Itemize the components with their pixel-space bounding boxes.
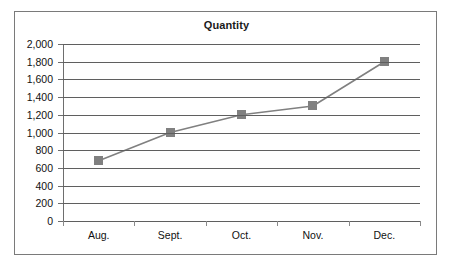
data-point-marker bbox=[308, 101, 317, 110]
y-tick-label: 1,800 bbox=[0, 57, 53, 68]
x-tick-mark bbox=[420, 221, 421, 226]
x-tick-label: Aug. bbox=[59, 230, 139, 241]
y-tick-label: 1,000 bbox=[0, 128, 53, 139]
gridline bbox=[63, 44, 420, 45]
x-tick-mark bbox=[206, 221, 207, 226]
gridline bbox=[63, 79, 420, 80]
x-tick-mark bbox=[63, 221, 64, 226]
x-tick-mark bbox=[277, 221, 278, 226]
x-tick-label: Sept. bbox=[130, 230, 210, 241]
chart-frame: Quantity 2,0001,8001,6001,4001,2001,0008… bbox=[14, 11, 437, 255]
y-tick-label: 200 bbox=[0, 198, 53, 209]
x-tick-label: Nov. bbox=[273, 230, 353, 241]
y-tick-label: 1,400 bbox=[0, 92, 53, 103]
y-tick-label: 1,200 bbox=[0, 110, 53, 121]
y-tick-label: 400 bbox=[0, 181, 53, 192]
gridline bbox=[63, 150, 420, 151]
data-point-marker bbox=[94, 156, 103, 165]
gridline bbox=[63, 221, 420, 222]
gridline bbox=[63, 133, 420, 134]
gridline bbox=[63, 62, 420, 63]
y-tick-label: 800 bbox=[0, 145, 53, 156]
gridline bbox=[63, 168, 420, 169]
gridline bbox=[63, 97, 420, 98]
gridline bbox=[63, 203, 420, 204]
x-tick-label: Oct. bbox=[202, 230, 282, 241]
y-tick-label: 0 bbox=[0, 216, 53, 227]
gridline bbox=[63, 186, 420, 187]
x-tick-mark bbox=[134, 221, 135, 226]
y-tick-label: 600 bbox=[0, 163, 53, 174]
x-tick-label: Dec. bbox=[344, 230, 424, 241]
chart-title: Quantity bbox=[15, 19, 438, 31]
gridline bbox=[63, 115, 420, 116]
y-tick-label: 2,000 bbox=[0, 39, 53, 50]
x-tick-mark bbox=[349, 221, 350, 226]
plot-area bbox=[63, 44, 420, 221]
y-tick-label: 1,600 bbox=[0, 74, 53, 85]
